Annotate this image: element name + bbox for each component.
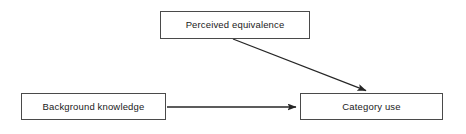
node-background-knowledge-label: Background knowledge — [43, 102, 145, 112]
node-category-use-label: Category use — [342, 102, 400, 112]
node-perceived-equivalence-label: Perceived equivalence — [186, 20, 285, 30]
node-category-use: Category use — [300, 93, 443, 120]
node-perceived-equivalence: Perceived equivalence — [160, 11, 310, 39]
diagram-canvas: Perceived equivalence Background knowled… — [0, 0, 466, 134]
edge-perceived-equivalence-to-category-use — [233, 39, 366, 91]
node-background-knowledge: Background knowledge — [21, 93, 166, 120]
